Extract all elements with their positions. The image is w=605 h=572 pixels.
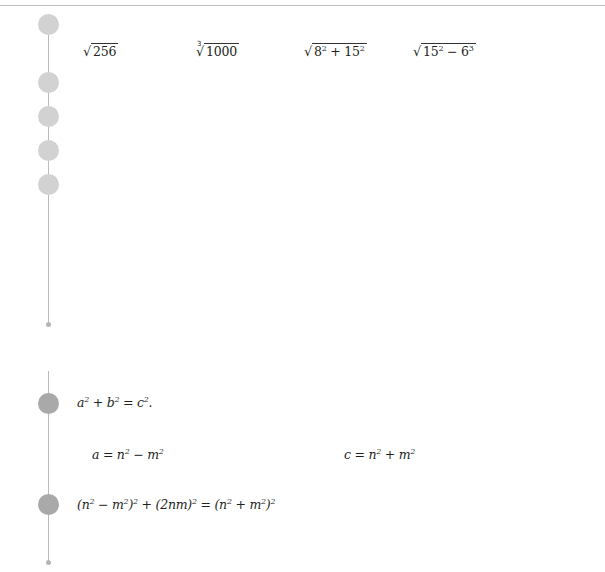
sqrt-symbol: √ (304, 44, 312, 59)
sqrt-symbol: √ (413, 44, 421, 59)
radicand: 82 + 152 (312, 43, 366, 59)
sqrt-symbol: √ (83, 44, 91, 59)
question-number-badge (38, 174, 59, 195)
equation: a2 + b2 = c2. (77, 395, 152, 410)
question-part: √256 (77, 44, 118, 59)
identity: (n2 − m2)2 + (2nm)2 = (n2 + m2)2 (77, 497, 275, 512)
question-text: a2 + b2 = c2. (77, 395, 152, 410)
question-number-badge (38, 14, 59, 35)
radicand: 1000 (204, 43, 239, 59)
question-part: (n2 − m2)2 + (2nm)2 = (n2 + m2)2 (77, 497, 275, 512)
radicand: 152 − 63 (421, 43, 475, 59)
question-number-badge (38, 106, 59, 127)
formula-a: a = n2 − m2 (92, 447, 164, 462)
top-rule (0, 5, 605, 6)
question-part: √152 − 63 (407, 44, 476, 59)
question-connector-line (48, 22, 49, 324)
connector-end-dot (46, 322, 51, 327)
connector-end-dot (46, 560, 51, 565)
question-number-badge (38, 140, 59, 161)
question-part: 3√1000 (190, 44, 239, 59)
question-part: √82 + 152 (298, 44, 367, 59)
question-number-badge (38, 494, 59, 515)
formula-c: c = n2 + m2 (344, 447, 415, 462)
radicand: 256 (91, 43, 118, 59)
question-number-badge (38, 72, 59, 93)
question-number-badge (38, 393, 59, 414)
